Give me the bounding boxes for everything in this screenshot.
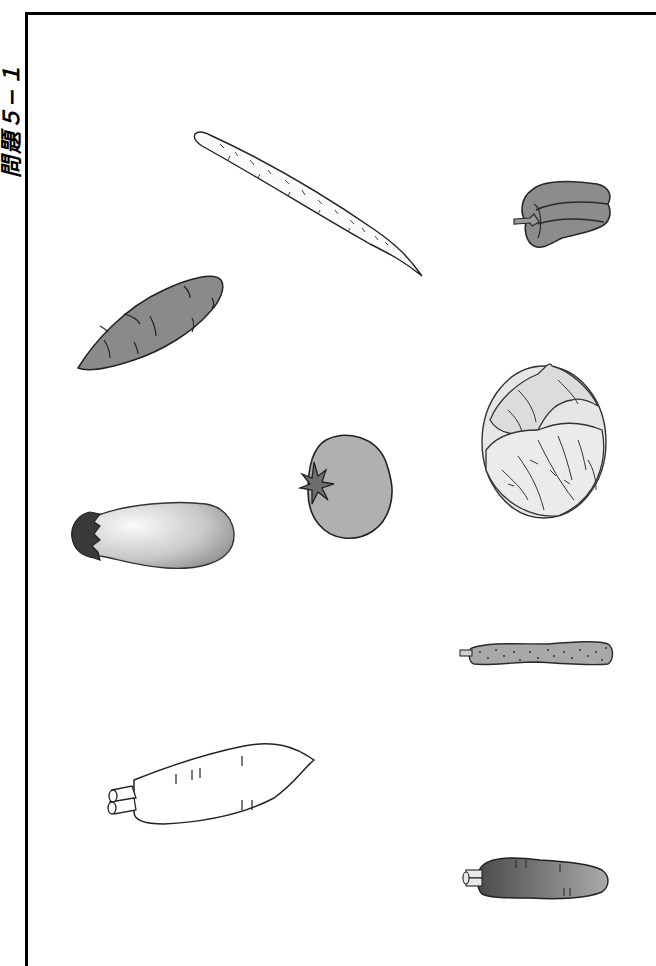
worksheet-title: 問題５−１ (0, 30, 24, 210)
frame-top-border (25, 12, 656, 15)
frame-left-border (25, 12, 28, 966)
daikon-icon (104, 740, 318, 828)
cabbage-icon (478, 360, 612, 520)
tomato-illustration (296, 432, 394, 542)
bell-pepper-icon (512, 178, 614, 252)
sweet-potato-icon (74, 272, 226, 374)
cucumber-illustration (458, 638, 614, 668)
tomato-icon (296, 432, 394, 542)
cucumber-icon (458, 638, 614, 668)
daikon-illustration (104, 740, 318, 828)
sweet-potato-illustration (74, 272, 226, 374)
eggplant-icon (66, 500, 238, 572)
bell-pepper-illustration (512, 178, 614, 252)
burdock-illustration (190, 130, 430, 282)
carrot-icon (460, 854, 610, 904)
eggplant-illustration (66, 500, 238, 572)
carrot-illustration (460, 854, 610, 904)
burdock-icon (190, 130, 430, 282)
cabbage-illustration (478, 360, 612, 520)
